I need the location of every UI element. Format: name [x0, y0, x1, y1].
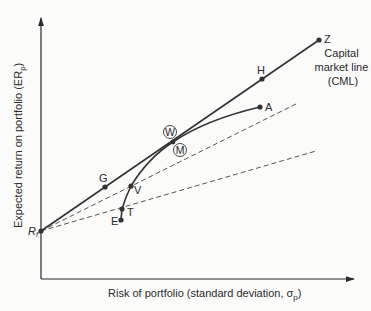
label-e: E — [111, 215, 118, 227]
x-axis-label: Risk of portfolio (standard deviation, σ… — [108, 287, 301, 302]
y-axis-label: Expected return on portfolio (ERp) — [12, 63, 27, 228]
label-w: W — [165, 126, 175, 138]
label-h: H — [257, 64, 265, 76]
capital-market-line — [41, 40, 319, 231]
point-e — [118, 217, 123, 222]
label-m: M — [176, 144, 185, 156]
cml-label: Capital market line (CML) — [315, 47, 371, 87]
cml-label-line-2: market line — [315, 61, 369, 73]
label-v: V — [134, 184, 142, 196]
label-z: Z — [324, 33, 331, 45]
point-a — [257, 104, 262, 109]
capital-market-line-diagram: W M Z H A G V T E Rf Capital market line… — [0, 0, 371, 311]
label-t: T — [127, 206, 134, 218]
point-z — [316, 37, 321, 42]
efficient-frontier-curve — [121, 107, 260, 220]
cml-label-line-1: Capital — [324, 47, 358, 59]
cml-label-line-3: (CML) — [328, 75, 359, 87]
point-v — [128, 183, 133, 188]
label-rf: Rf — [28, 225, 39, 239]
point-t — [119, 206, 124, 211]
label-a: A — [265, 101, 273, 113]
point-g — [102, 184, 107, 189]
label-g: G — [99, 172, 108, 184]
point-h — [259, 76, 264, 81]
point-rf — [38, 228, 43, 233]
